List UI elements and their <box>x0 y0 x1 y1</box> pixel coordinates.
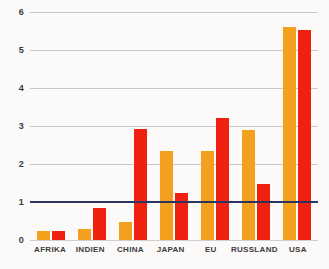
x-axis: AFRIKAINDIENCHINAJAPANEURUSSLANDUSA <box>30 245 318 254</box>
x-tick-label: CHINA <box>110 245 150 254</box>
bar <box>37 231 50 241</box>
bar <box>78 229 91 240</box>
y-tick-label: 1 <box>6 197 24 207</box>
bar <box>175 193 188 241</box>
bar <box>119 222 132 240</box>
y-tick-label: 6 <box>6 7 24 17</box>
x-tick-label: JAPAN <box>151 245 191 254</box>
bar-group <box>277 12 318 240</box>
y-tick-label: 4 <box>6 83 24 93</box>
reference-line <box>30 201 318 203</box>
x-tick-label: USA <box>278 245 318 254</box>
bar <box>52 231 65 241</box>
x-tick-label: INDIEN <box>70 245 110 254</box>
bar <box>134 129 147 240</box>
bar <box>242 130 255 240</box>
bar-chart: 0123456 AFRIKAINDIENCHINAJAPANEURUSSLAND… <box>0 0 329 269</box>
bar-group <box>236 12 277 240</box>
bar <box>160 151 173 240</box>
y-tick-label: 0 <box>6 235 24 245</box>
bar <box>93 208 106 240</box>
bar-group <box>112 12 153 240</box>
bar-group <box>71 12 112 240</box>
bar <box>257 184 270 240</box>
bar-group <box>153 12 194 240</box>
bar-group <box>195 12 236 240</box>
axis-baseline <box>30 240 318 241</box>
y-tick-label: 3 <box>6 121 24 131</box>
bar <box>283 27 296 240</box>
bar <box>216 118 229 240</box>
bar <box>201 151 214 240</box>
bar-groups <box>30 12 318 240</box>
x-tick-label: RUSSLAND <box>231 245 278 254</box>
y-tick-label: 5 <box>6 45 24 55</box>
x-tick-label: AFRIKA <box>30 245 70 254</box>
bar-group <box>30 12 71 240</box>
bar <box>298 30 311 240</box>
y-tick-label: 2 <box>6 159 24 169</box>
x-tick-label: EU <box>191 245 231 254</box>
